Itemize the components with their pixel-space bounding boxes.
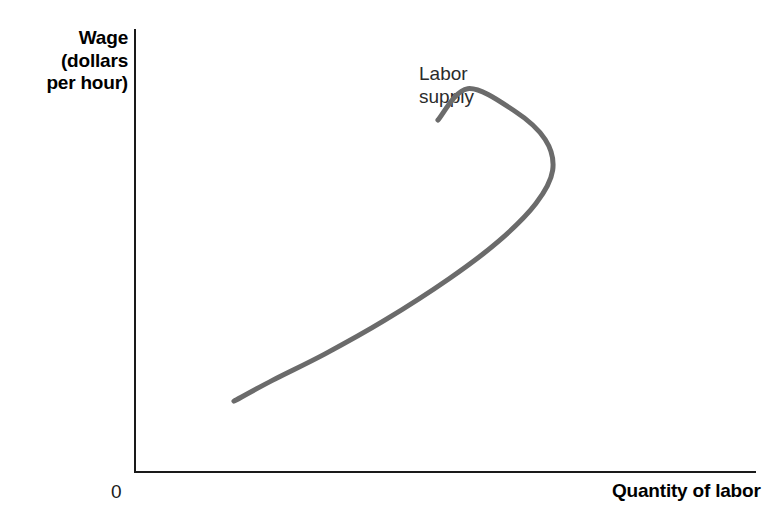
labor-supply-figure: Wage (dollars per hour) Quantity of labo… <box>0 0 781 527</box>
plot-area <box>0 0 781 527</box>
labor-supply-curve <box>234 89 553 402</box>
